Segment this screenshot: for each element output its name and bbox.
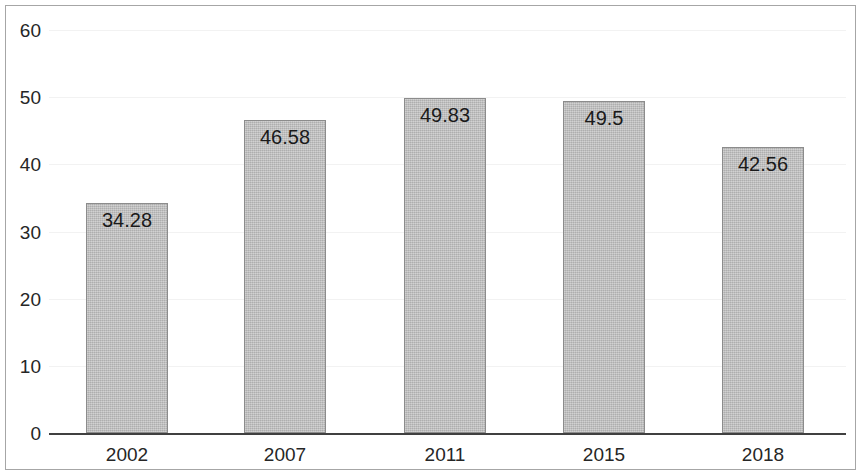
x-tick-2015: 2015: [549, 445, 659, 464]
x-axis: 2002 2007 2011 2015 2018: [0, 0, 868, 476]
x-tick-2007: 2007: [230, 445, 340, 464]
x-tick-2002: 2002: [72, 445, 182, 464]
x-tick-2018: 2018: [708, 445, 818, 464]
bar-chart: 34.28 46.58 49.83 49.5 42.56 60 50 40 30…: [0, 0, 868, 476]
x-tick-2011: 2011: [390, 445, 500, 464]
